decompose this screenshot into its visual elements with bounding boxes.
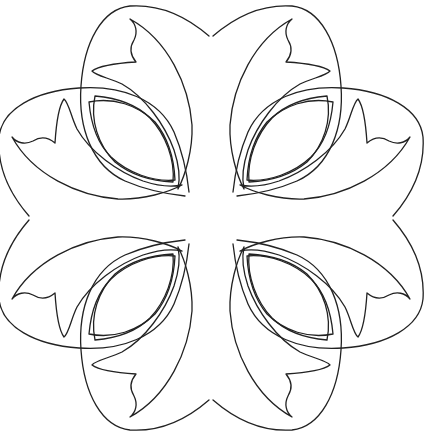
bottom-left-horizontal-petal	[0, 220, 189, 348]
coloring-page-drawing: Floral four-fold symmetric coloring page…	[0, 0, 425, 435]
top-left-horizontal-petal	[0, 88, 189, 216]
